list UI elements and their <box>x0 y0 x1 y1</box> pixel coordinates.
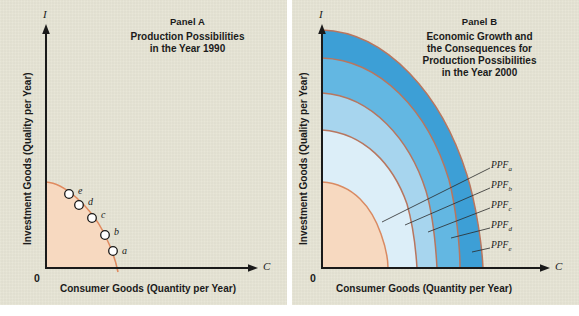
panel-b-x-axis-arrow <box>540 264 550 272</box>
point-label-a: a <box>122 245 127 256</box>
panel-b-y-axis-title: Investment Goods (Quality per Year) <box>298 72 309 245</box>
panel-a-x-axis-arrow <box>248 264 258 272</box>
ppf-label-d-text: PPF <box>491 220 508 230</box>
point-c-marker[interactable] <box>88 214 97 223</box>
panel-b-origin-label: 0 <box>310 272 316 284</box>
ppf-label-d-sub: d <box>508 225 512 233</box>
panel-a-origin-label: 0 <box>34 272 40 284</box>
ppf-label-a: PPFa <box>491 160 512 173</box>
ppf-label-a-sub: a <box>508 165 512 173</box>
panel-b-plot <box>292 0 579 305</box>
panel-b-x-axis-title: Consumer Goods (Quantity per Year) <box>336 283 512 294</box>
point-label-e: e <box>78 185 82 196</box>
ppf-label-e-sub: e <box>508 245 511 253</box>
ppf-label-c-text: PPF <box>491 200 508 210</box>
panel-a-y-axis-arrow <box>42 24 50 34</box>
panel-b: Panel B Economic Growth and the Conseque… <box>292 0 579 305</box>
ppf-label-e-text: PPF <box>491 240 508 250</box>
panel-a-x-axis-symbol: C <box>263 260 270 272</box>
panel-a-y-axis-symbol: I <box>43 8 47 20</box>
panel-a-y-axis-title: Investment Goods (Quality per Year) <box>22 72 33 245</box>
panel-a: Panel A Production Possibilities in the … <box>0 0 287 305</box>
ppf-label-d: PPFd <box>491 220 512 233</box>
point-a-marker[interactable] <box>109 247 118 256</box>
ppf-label-b: PPFb <box>491 180 512 193</box>
ppf-label-b-text: PPF <box>491 180 508 190</box>
ppf-label-c-sub: c <box>508 205 511 213</box>
point-label-d: d <box>88 196 93 207</box>
ppf-label-a-text: PPF <box>491 160 508 170</box>
point-label-b: b <box>114 226 119 237</box>
panel-b-y-axis-arrow <box>318 24 326 34</box>
point-e-marker[interactable] <box>65 190 74 199</box>
ppf-label-b-sub: b <box>508 185 512 193</box>
point-d-marker[interactable] <box>75 201 84 210</box>
figure-production-possibilities: Panel A Production Possibilities in the … <box>0 0 579 316</box>
ppf-label-c: PPFc <box>491 200 512 213</box>
panel-b-y-axis-symbol: I <box>319 8 323 20</box>
panel-a-x-axis-title: Consumer Goods (Quantity per Year) <box>60 283 236 294</box>
point-b-marker[interactable] <box>101 231 110 240</box>
panel-a-plot <box>0 0 287 305</box>
ppf-label-e: PPFe <box>491 240 512 253</box>
panel-b-x-axis-symbol: C <box>555 260 562 272</box>
point-label-c: c <box>101 209 105 220</box>
